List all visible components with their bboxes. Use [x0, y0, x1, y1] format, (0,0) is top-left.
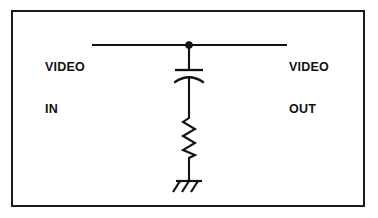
label-video-in-line1: VIDEO	[45, 60, 85, 74]
label-video-out-line2: OUT	[289, 102, 329, 116]
label-video-out-line1: VIDEO	[289, 60, 329, 74]
label-video-in-line2: IN	[45, 102, 85, 116]
label-video-out: VIDEO OUT	[289, 32, 329, 144]
label-video-in: VIDEO IN	[45, 32, 85, 144]
ground-hatch-3	[191, 181, 198, 192]
ground-hatch-1	[173, 181, 180, 192]
resistor-zigzag	[183, 118, 195, 158]
figure-root: VIDEO IN VIDEO OUT	[0, 0, 378, 218]
junction-dot	[185, 41, 193, 49]
ground-hatch-2	[182, 181, 189, 192]
